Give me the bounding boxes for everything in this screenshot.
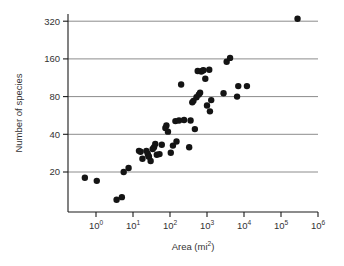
data-point [119,194,125,200]
x-tick-label-10^4: 104 [237,219,252,231]
data-point [206,67,212,73]
data-point [204,102,210,108]
data-point [202,76,208,82]
y-tick-label-40: 40 [49,129,60,140]
data-point [156,151,162,157]
data-point [139,156,145,162]
data-point [244,83,250,89]
y-tick-label-20: 20 [49,166,60,177]
x-tick-label-10^2: 102 [163,219,178,231]
x-tick-label-10^0: 100 [89,219,104,231]
data-point [208,97,214,103]
x-axis-title: Area (mi2) [172,240,215,252]
data-point [159,142,165,148]
x-tick-label-10^5: 105 [274,219,289,231]
data-point [82,175,88,181]
scatter-plot-figure: 204080160320 100101102103104105106 Numbe… [0,0,344,266]
data-point [197,89,203,95]
y-tick-label-320: 320 [44,16,60,27]
data-point [227,55,233,61]
chart-canvas: 204080160320 100101102103104105106 Numbe… [0,0,344,266]
data-point [234,93,240,99]
data-point [165,128,171,134]
data-point [235,83,241,89]
data-point [94,178,100,184]
x-tick-group: 100101102103104105106 [89,212,326,231]
data-point [137,149,143,155]
data-point [173,138,179,144]
y-tick-label-160: 160 [44,53,60,64]
axis-titles-group: Number of speciesArea (mi2) [13,73,214,252]
data-points-group [82,16,301,203]
x-tick-label-10^1: 101 [126,219,141,231]
data-point [181,117,187,123]
x-tick-label-10^6: 106 [311,219,326,231]
data-point [220,90,226,96]
data-point [163,122,169,128]
x-tick-label-10^3: 103 [200,219,215,231]
data-point [192,126,198,132]
data-point [294,16,300,22]
data-point [186,144,192,150]
y-tick-group: 204080160320 [44,16,68,178]
data-point [168,150,174,156]
y-axis-title: Number of species [13,73,24,152]
data-point [125,165,131,171]
gridlines-group [68,21,318,172]
data-point [200,67,206,73]
data-point [178,81,184,87]
axes-group [68,14,318,212]
data-point [187,117,193,123]
y-tick-label-80: 80 [49,91,60,102]
data-point [147,158,153,164]
data-point [207,108,213,114]
data-point [152,141,158,147]
